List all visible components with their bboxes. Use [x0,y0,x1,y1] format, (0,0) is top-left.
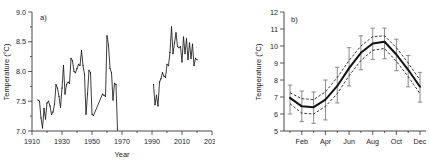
panel-a-point [186,38,187,39]
panel-a-point [169,52,170,53]
panel-a-point [75,72,76,73]
panel-a-point [112,100,113,101]
panel-b-xtick-4: Oct [391,137,402,146]
panel-a-point [159,82,160,83]
panel-a-point [103,95,104,96]
panel-a-point [114,83,115,84]
panel-a-point [43,108,44,109]
panel-a-point [63,65,64,66]
panel-b-error-bars [288,28,422,123]
panel-a-xtick-0: 1910 [24,137,40,146]
panel-a-point [91,114,92,115]
panel-a-xtick-3: 1970 [114,137,130,146]
panel-b-mean-curve [290,42,420,107]
panel-a-point [163,76,164,77]
panel-a-point [162,72,163,73]
panel-b-confidence-bands [290,36,420,114]
panel-a-ytick-3: 8.5 [16,37,26,46]
panel-a-x-axis-title: Year [115,150,130,159]
panel-a-point [105,96,106,97]
panel-a-point [196,59,197,60]
panel-a-point [115,84,116,85]
panel-b-xtick-3: Aug [366,137,379,146]
panel-a-point [168,65,169,66]
panel-a-point [165,77,166,78]
panel-b-xtick-0: Feb [296,137,308,146]
panel-a-point [52,111,53,112]
panel-a-timeseries: Temperature (°C) a) 7.0 7.5 8.0 8.5 [0,0,215,165]
panel-a-point [60,107,61,108]
panel-a-point [79,65,80,66]
panel-a-data-series [38,27,197,130]
panel-a-point [177,46,178,47]
panel-a-point [172,53,173,54]
panel-a-point [67,82,68,83]
panel-a-y-axis-title: Temperature (°C) [2,44,11,101]
panel-b-ytick-6: 11 [271,25,278,34]
panel-a-point [156,95,157,96]
panel-a-data-markers [37,26,197,130]
panel-a-point [102,94,103,95]
panel-a-point [187,59,188,60]
panel-b-seasonal-cycle: Temperature (°C) b) 5 6 7 8 9 10 11 [215,0,430,165]
panel-b-xtick-1: Apr [320,137,332,146]
panel-a-segment-1914-1967 [38,36,118,130]
panel-a-point [40,117,41,118]
panel-a-point [154,104,155,105]
panel-a-point [82,65,83,66]
panel-a-point [157,105,158,106]
panel-a-point [85,114,86,115]
panel-a-point [57,88,58,89]
panel-b-ytick-2: 7 [274,93,278,102]
panel-a-point [160,78,161,79]
panel-a-point [190,58,191,59]
panel-a-point [90,72,91,73]
panel-a-point [153,84,154,85]
panel-a-point [76,68,77,69]
panel-a-point [72,60,73,61]
panel-a-point [108,45,109,46]
panel-a-x-ticks [32,131,212,135]
panel-a-xtick-6: 2030 [204,137,215,146]
panel-a-point [174,42,175,43]
figure-container: Temperature (°C) a) 7.0 7.5 8.0 8.5 [0,0,430,165]
panel-b-x-ticks [290,131,420,135]
panel-a-point [78,64,79,65]
panel-a-segment-1991-2020 [154,27,198,106]
panel-a-label: a) [40,13,47,22]
panel-a-point [193,65,194,66]
panel-b-mean-line [290,42,420,107]
panel-a-point [48,101,49,102]
panel-a-point [49,105,50,106]
panel-a-point [111,72,112,73]
panel-a-point [51,114,52,115]
panel-b-ytick-7: 12 [270,8,278,17]
panel-b-ytick-1: 6 [274,110,278,119]
panel-a-point [106,35,107,36]
panel-a-xtick-1: 1930 [54,137,70,146]
panel-a-point [171,26,172,27]
panel-a-ytick-2: 8.0 [16,67,26,76]
panel-b-label: b) [291,15,298,24]
panel-a-point [81,50,82,51]
panel-a-point [93,115,94,116]
panel-a-point [69,83,70,84]
panel-a-svg: Temperature (°C) a) 7.0 7.5 8.0 8.5 [0,0,215,165]
panel-a-point [175,32,176,33]
panel-a-point [39,101,40,102]
panel-a-point [64,94,65,95]
panel-b-ytick-3: 8 [274,76,278,85]
panel-b-ytick-5: 10 [270,42,278,51]
panel-a-point [178,47,179,48]
panel-a-point [192,44,193,45]
panel-a-point [54,104,55,105]
panel-a-xtick-5: 2010 [174,137,190,146]
panel-a-point [109,68,110,69]
panel-a-point [73,71,74,72]
panel-a-point [42,127,43,128]
panel-b-ytick-0: 5 [274,127,278,136]
panel-a-point [58,96,59,97]
panel-b-xtick-2: Jun [343,137,355,146]
panel-a-point [88,70,89,71]
panel-a-ytick-1: 7.5 [16,97,26,106]
